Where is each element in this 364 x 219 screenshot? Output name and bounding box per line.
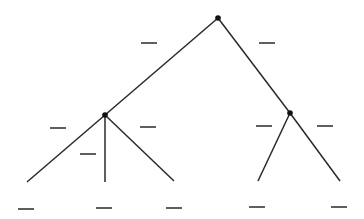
edge-left-leaf-l1 [27,115,105,182]
node-left [102,112,108,118]
edge-left-leaf-l3 [105,115,174,181]
edge-root-left [105,18,218,115]
tree-edges [27,18,340,182]
blank-labels [18,43,347,209]
edge-right-leaf-r1 [258,113,290,181]
node-root [215,15,221,21]
edge-right-leaf-r2 [290,113,340,181]
node-right [287,110,293,116]
tree-nodes [102,15,293,118]
tree-diagram [0,0,364,219]
edge-root-right [218,18,290,113]
